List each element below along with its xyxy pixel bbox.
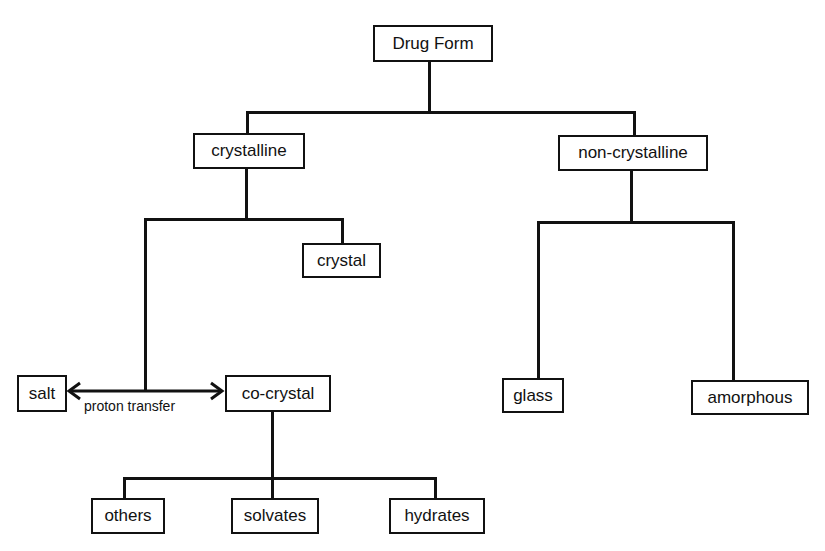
node-others: others (91, 498, 165, 534)
node-crystalline: crystalline (193, 133, 305, 169)
node-crystal: crystal (302, 243, 381, 278)
node-amorphous: amorphous (691, 380, 809, 415)
proton-transfer-arrow (0, 0, 825, 551)
node-glass: glass (502, 378, 564, 413)
node-co-crystal: co-crystal (225, 375, 331, 412)
node-solvates: solvates (231, 498, 319, 534)
label-proton-transfer: proton transfer (84, 398, 175, 414)
node-non-crystalline: non-crystalline (558, 135, 708, 171)
node-salt: salt (17, 375, 67, 412)
node-hydrates: hydrates (389, 498, 485, 534)
node-drug-form: Drug Form (373, 25, 493, 62)
drug-form-diagram: Drug Form crystalline non-crystalline cr… (0, 0, 825, 551)
